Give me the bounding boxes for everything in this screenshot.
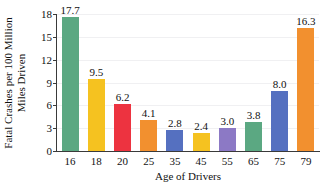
bar-value-label: 8.0	[273, 78, 287, 90]
x-tick-label-16: 16	[57, 153, 83, 169]
y-tick-label-3: 3	[4, 122, 52, 134]
x-tick-label-55: 55	[214, 153, 240, 169]
bar-75: 8.0	[271, 91, 288, 151]
bar-25: 4.1	[140, 120, 157, 151]
x-tick-label-45: 45	[188, 153, 214, 169]
bar-value-label: 2.8	[168, 117, 182, 129]
x-axis-ticks: 16 18 20 25 35 45 55 65 75 79	[57, 153, 319, 169]
x-axis-line	[56, 151, 320, 152]
bar-value-label: 3.0	[220, 115, 234, 127]
bar-slot: 16.3	[293, 14, 319, 151]
bar-slot: 3.0	[214, 14, 240, 151]
y-axis-ticks: 18 15 12 9 6 3 0	[0, 0, 52, 191]
bar-35: 2.8	[166, 130, 183, 151]
bar-65: 3.8	[245, 122, 262, 151]
plot-area: 17.7 9.5 6.2 4.1 2.8	[57, 14, 319, 151]
bar-slot: 9.5	[83, 14, 109, 151]
bar-slot: 6.2	[109, 14, 135, 151]
x-tick-label-79: 79	[293, 153, 319, 169]
bar-slot: 3.8	[240, 14, 266, 151]
bar-slot: 4.1	[136, 14, 162, 151]
bar-value-label: 16.3	[296, 15, 315, 27]
bar-79: 16.3	[297, 28, 314, 151]
y-tick-label-15: 15	[4, 31, 52, 43]
x-tick-label-25: 25	[136, 153, 162, 169]
bar-value-label: 6.2	[116, 91, 130, 103]
bar-45: 2.4	[193, 133, 210, 151]
bar-slot: 2.8	[162, 14, 188, 151]
y-tick-label-6: 6	[4, 99, 52, 111]
x-tick-label-18: 18	[83, 153, 109, 169]
bar-slot: 2.4	[188, 14, 214, 151]
bar-value-label: 3.8	[247, 109, 261, 121]
bar-18: 9.5	[88, 79, 105, 151]
bar-value-label: 9.5	[89, 66, 103, 78]
x-tick-label-75: 75	[267, 153, 293, 169]
y-tick-label-9: 9	[4, 77, 52, 89]
bar-value-label: 17.7	[60, 4, 79, 16]
y-tick-label-12: 12	[4, 54, 52, 66]
bar-20: 6.2	[114, 104, 131, 151]
bar-chart-figure: Fatal Crashes per 100 Million Miles Driv…	[0, 0, 327, 191]
x-tick-label-20: 20	[109, 153, 135, 169]
bar-16: 17.7	[62, 17, 79, 151]
bar-series: 17.7 9.5 6.2 4.1 2.8	[57, 14, 319, 151]
bar-value-label: 2.4	[194, 120, 208, 132]
y-tick-label-0: 0	[4, 145, 52, 157]
bar-slot: 17.7	[57, 14, 83, 151]
bar-55: 3.0	[219, 128, 236, 151]
bar-slot: 8.0	[267, 14, 293, 151]
y-tick-label-18: 18	[4, 8, 52, 20]
x-tick-label-65: 65	[240, 153, 266, 169]
x-tick-label-35: 35	[162, 153, 188, 169]
bar-value-label: 4.1	[142, 107, 156, 119]
x-axis-title: Age of Drivers	[57, 170, 319, 182]
